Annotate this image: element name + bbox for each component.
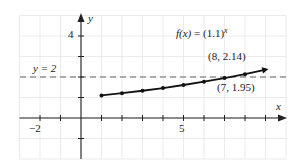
data-point [202,80,206,84]
function-base: = (1.1) [191,27,224,40]
curve-arrow-icon [262,67,269,73]
data-point [182,83,186,87]
data-point [141,89,145,93]
hline-label: y = 2 [32,62,57,74]
function-exponent: x [223,26,228,35]
x-axis-label: x [275,100,281,112]
y-axis-label: y [87,12,93,24]
annotation-point-7: (7, 1.95) [217,81,255,94]
function-label: f(x) = (1.1)x [176,26,228,40]
data-point [243,72,247,76]
data-point [161,86,165,90]
annotation-point-8: (8, 2.14) [208,50,246,63]
tick-label-x-5: 5 [179,122,185,134]
y-axis-arrow-icon [78,13,85,22]
data-point [100,93,104,97]
data-point [223,76,227,80]
tick-label-y-4: 4 [68,28,74,40]
tick-label-x-neg2: −2 [29,122,41,134]
exponential-function-chart: y x 4 −2 5 y = 2 f(x) = (1.1)x (8, 2.14)… [0,0,298,168]
function-name: f(x) [176,27,192,40]
data-point [120,91,124,95]
